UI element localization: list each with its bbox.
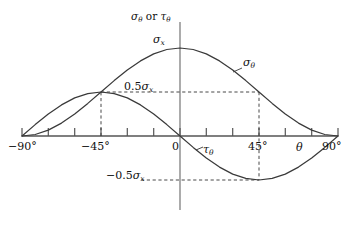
x-axis-ticks bbox=[22, 128, 338, 136]
tau-theta-leader bbox=[196, 147, 203, 150]
curve-label-sigma-theta: σθ bbox=[243, 57, 255, 70]
x-tick-label-plus90: 90° bbox=[322, 141, 342, 152]
plot-canvas bbox=[0, 0, 356, 225]
label-sigma-x-peak: σx bbox=[153, 34, 165, 47]
x-tick-label-plus45: 45° bbox=[248, 141, 268, 152]
label-neg-half-sigma-x: −0.5σx bbox=[106, 170, 144, 183]
curve-label-tau-theta: τθ bbox=[203, 144, 214, 157]
label-half-sigma-x: 0.5σx bbox=[124, 81, 153, 94]
x-tick-label-minus45: −45° bbox=[81, 141, 110, 152]
stress-distribution-figure: σθ or τθ σx 0.5σx −0.5σx −90° −45° 0 45°… bbox=[0, 0, 356, 225]
x-tick-label-zero: 0 bbox=[172, 141, 179, 152]
y-axis-title: σθ or τθ bbox=[131, 11, 171, 23]
x-tick-label-minus90: −90° bbox=[8, 141, 37, 152]
sigma-theta-leader bbox=[233, 68, 242, 72]
x-axis-symbol: θ bbox=[296, 142, 303, 153]
